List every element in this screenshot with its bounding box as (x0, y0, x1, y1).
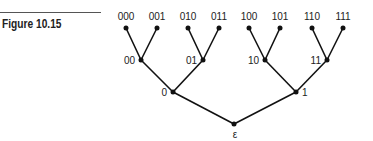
root-label: ε (233, 129, 238, 140)
node-label: 00 (124, 55, 136, 66)
tree-edges (126, 28, 343, 124)
leaf-label: 010 (180, 11, 197, 22)
node-label: 01 (186, 55, 198, 66)
node-label: 1 (302, 87, 308, 98)
leaf-label: 111 (335, 11, 351, 22)
binary-tree-diagram: 000 001 010 011 100 101 110 111 00 01 10… (0, 0, 373, 141)
node-label: 0 (161, 87, 167, 98)
leaf-label: 110 (304, 11, 320, 22)
leaf-label: 100 (241, 11, 258, 22)
node-label: 10 (248, 55, 260, 66)
leaf-label: 001 (149, 11, 166, 22)
leaf-label: 101 (272, 11, 289, 22)
leaf-labels: 000 001 010 011 100 101 110 111 (118, 11, 351, 22)
leaf-label: 011 (211, 11, 227, 22)
level2-labels: 00 01 10 11 (124, 55, 322, 66)
leaf-label: 000 (118, 11, 135, 22)
node-label: 11 (311, 55, 322, 66)
